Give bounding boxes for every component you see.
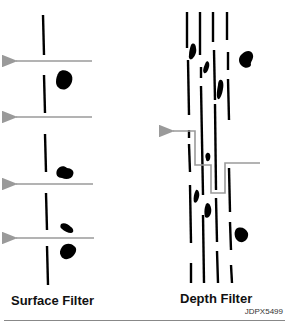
surface-particles	[56, 70, 76, 259]
particle-icon	[60, 223, 73, 233]
depth-particles	[189, 44, 253, 243]
particle-icon	[205, 153, 210, 161]
surface-filter-media	[43, 15, 48, 285]
particle-icon	[204, 203, 211, 218]
particle-icon	[56, 166, 73, 179]
particle-icon	[239, 51, 253, 68]
particle-icon	[56, 70, 72, 89]
particle-icon	[194, 190, 200, 203]
surface-flow-arrows	[16, 61, 94, 238]
depth-filter-label: Depth Filter	[180, 291, 252, 306]
surface-filter-label: Surface Filter	[11, 293, 94, 308]
particle-icon	[60, 244, 76, 259]
particle-icon	[235, 228, 249, 243]
figure-code: JDPX5499	[245, 307, 283, 316]
particle-icon	[217, 80, 224, 99]
particle-icon	[203, 61, 209, 73]
filter-diagram	[0, 0, 289, 323]
bottom-rule	[4, 320, 285, 321]
particle-icon	[189, 44, 196, 60]
